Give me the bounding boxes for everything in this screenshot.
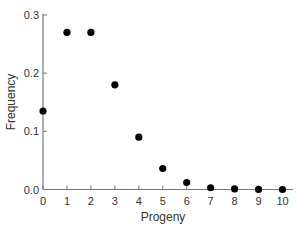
data-point [159, 165, 166, 172]
x-tick-label: 10 [276, 195, 288, 207]
x-tick-label: 6 [184, 195, 190, 207]
data-point [39, 107, 46, 114]
data-point [111, 81, 118, 88]
data-point [135, 134, 142, 141]
data-point [231, 185, 238, 192]
x-tick-label: 8 [232, 195, 238, 207]
data-point [207, 184, 214, 191]
x-tick-label: 9 [255, 195, 261, 207]
x-tick-label: 3 [112, 195, 118, 207]
data-point [279, 186, 286, 193]
x-tick-label: 2 [88, 195, 94, 207]
axes: 0.00.10.20.3012345678910 [24, 9, 293, 207]
y-tick-label: 0.1 [24, 125, 39, 137]
x-tick-label: 4 [136, 195, 142, 207]
x-tick-label: 0 [40, 195, 46, 207]
x-tick-label: 7 [208, 195, 214, 207]
data-point [255, 186, 262, 193]
data-points [39, 29, 286, 193]
x-tick-label: 1 [64, 195, 70, 207]
data-point [183, 179, 190, 186]
data-point [87, 29, 94, 36]
x-axis-title: Progeny [141, 210, 186, 224]
scatter-chart: 0.00.10.20.3012345678910 Progeny Frequen… [0, 0, 302, 234]
y-axis-title: Frequency [4, 74, 18, 131]
y-tick-label: 0.0 [24, 184, 39, 196]
y-tick-label: 0.2 [24, 67, 39, 79]
x-tick-label: 5 [160, 195, 166, 207]
data-point [63, 29, 70, 36]
y-tick-label: 0.3 [24, 9, 39, 21]
